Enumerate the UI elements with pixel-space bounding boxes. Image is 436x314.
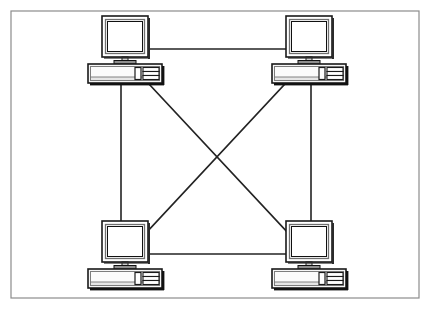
diagram-canvas [0,0,436,314]
network-diagram: Mesh network topology [0,0,436,314]
